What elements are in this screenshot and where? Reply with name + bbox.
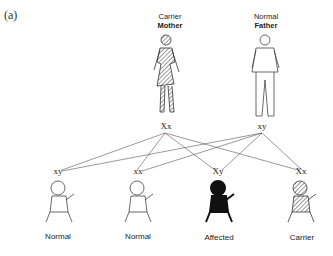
child-figure-4: [288, 181, 316, 222]
father-figure: [252, 35, 279, 116]
child-genotype-1: xy: [43, 166, 73, 176]
child-genotype-4: Xx: [286, 166, 316, 176]
child-label-4: Carrier: [272, 233, 332, 242]
mother-genotype: Xx: [151, 121, 181, 131]
child-genotype-2: xx: [123, 166, 153, 176]
child-label-2: Normal: [108, 232, 168, 241]
mother-figure: [154, 35, 179, 112]
child-figure-1: [46, 181, 74, 222]
child-figure-3: [206, 181, 234, 222]
child-label-3: Affected: [189, 233, 249, 242]
child-genotype-3: Xy: [203, 166, 233, 176]
child-label-1: Normal: [28, 232, 88, 241]
father-genotype: xy: [247, 121, 277, 131]
child-figure-2: [125, 181, 153, 222]
inheritance-lines: [62, 133, 302, 171]
